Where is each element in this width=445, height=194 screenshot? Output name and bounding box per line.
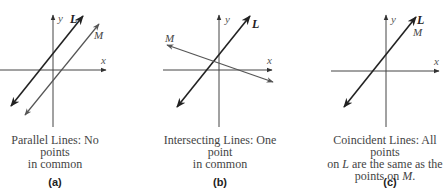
line-L-label: L [416,13,424,27]
panel-a-graph: y x L M [0,12,106,127]
panel-label-b: (b) [205,176,235,188]
panel-b-graph: y x L M [163,13,273,127]
line-M-label: M [93,29,104,41]
line-L-label: L [69,12,77,26]
line-M [167,45,273,82]
caption-b-line2: in common [150,158,290,170]
line-M-label: M [164,32,175,44]
caption-b: Intersecting Lines: One point in common [150,134,290,170]
caption-a-line2: in common [0,158,110,170]
x-axis-label: x [100,54,106,66]
caption-a-line1: Parallel Lines: No points [0,134,110,158]
panel-label-a: (a) [40,176,70,188]
caption-a: Parallel Lines: No points in common [0,134,110,170]
x-axis-label: x [266,54,272,66]
panel-label-c: (c) [375,176,405,188]
caption-b-line1: Intersecting Lines: One point [150,134,290,158]
caption-c-line2-prefix: on [327,157,342,171]
panel-c-graph: y x L M [331,13,439,127]
y-axis-label: y [390,13,396,25]
caption-c-line1: Coincident Lines: All points [320,134,445,158]
line-M-label: M [412,26,423,38]
caption-c-line3-suffix: . [412,169,415,183]
caption-c: Coincident Lines: All points on L are th… [320,134,445,182]
x-axis-label: x [433,55,439,67]
y-axis-label: y [224,13,230,25]
y-axis-label: y [57,12,63,24]
line-L-label: L [251,17,259,31]
line-L-M [344,17,416,107]
line-L [11,16,83,106]
